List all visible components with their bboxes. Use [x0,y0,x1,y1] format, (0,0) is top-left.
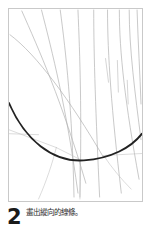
lower-ray-2 [9,134,39,135]
ray-10 [137,10,141,104]
caption-text: 畫出縱向的線條。 [26,207,144,218]
mark-2 [117,60,118,92]
radiating-construction-lines [10,10,141,197]
mark-3 [127,80,128,104]
ray-6 [94,10,100,197]
caption-row: 2 畫出縱向的線條。 [0,203,152,235]
step-number: 2 [7,205,22,229]
mark-1 [106,58,109,82]
illustration-frame [8,8,143,202]
ray-4 [60,10,74,197]
ray-3 [42,10,78,193]
ray-9 [129,10,141,140]
short-tick-marks [106,58,129,104]
page-root: 2 畫出縱向的線條。 [0,0,152,235]
ray-7 [108,10,122,193]
lower-radiating-lines [9,130,142,199]
ray-5 [78,10,81,197]
sketch-canvas [9,9,142,201]
